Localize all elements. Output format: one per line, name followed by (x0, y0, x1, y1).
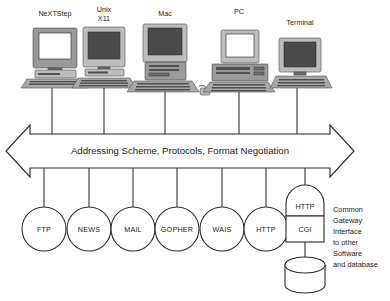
service-node-mail[interactable]: MAIL (111, 207, 155, 251)
service-label-gopher: GOPHER (161, 225, 193, 234)
note-line-3: Interface (333, 227, 362, 236)
machine-label-terminal: Terminal (286, 18, 314, 27)
machine-label-nextstep: NeXTStep (38, 9, 71, 18)
machine-label-unix-line2: X11 (98, 14, 110, 23)
pc-computer-icon (203, 30, 275, 92)
note-line-5: Software (333, 249, 362, 258)
service-label-http: HTTP (256, 225, 276, 234)
gateway-note: Common Gateway Interface to other Softwa… (333, 205, 378, 269)
service-label-ftp: FTP (37, 225, 51, 234)
gateway-label-http: HTTP (296, 202, 315, 211)
desktop-computer-icon-unix (72, 27, 136, 88)
architecture-diagram: NeXTStep Unix X11 Mac PC Terminal (0, 0, 390, 301)
gateway-node[interactable]: HTTP CGI (286, 185, 324, 242)
service-node-ftp[interactable]: FTP (22, 207, 66, 251)
database-cylinder-icon[interactable] (285, 257, 325, 293)
service-label-wais: WAIS (213, 225, 232, 234)
service-node-http[interactable]: HTTP (244, 207, 288, 251)
machine-label-unix-line1: Unix (97, 5, 112, 14)
banner-label: Addressing Scheme, Protocols, Format Neg… (71, 145, 289, 156)
note-line-2: Gateway (333, 216, 362, 225)
machine-label-pc: PC (234, 7, 244, 16)
note-line-4: to other (333, 238, 359, 247)
diagram-canvas: NeXTStep Unix X11 Mac PC Terminal (0, 0, 390, 301)
service-label-mail: MAIL (124, 225, 142, 234)
macintosh-computer-icon (127, 24, 210, 95)
gateway-label-cgi: CGI (299, 225, 312, 234)
service-node-news[interactable]: NEWS (67, 207, 111, 251)
banner: Addressing Scheme, Protocols, Format Neg… (6, 125, 354, 177)
machine-label-mac: Mac (158, 9, 172, 18)
service-label-news: NEWS (78, 225, 100, 234)
service-node-gopher[interactable]: GOPHER (155, 207, 199, 251)
note-line-6: and database (333, 260, 378, 269)
note-line-1: Common (333, 205, 363, 214)
service-node-wais[interactable]: WAIS (200, 207, 244, 251)
terminal-icon (270, 38, 332, 88)
